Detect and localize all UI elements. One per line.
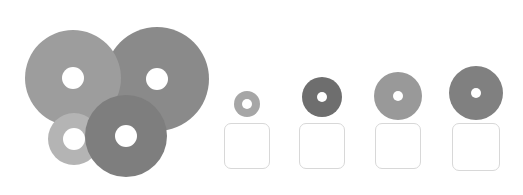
sample-4-disc-center-hole — [471, 88, 481, 98]
illustration-canvas — [0, 0, 523, 195]
sample-1-disc — [234, 91, 260, 117]
sample-1-swatch — [224, 123, 270, 169]
sample-2-disc-center-hole — [317, 92, 327, 102]
disc-large-light-center-hole — [62, 67, 84, 89]
disc-medium-dark-center-hole — [115, 125, 137, 147]
disc-medium-dark — [85, 95, 167, 177]
disc-small-pale-center-hole — [63, 128, 85, 150]
sample-2-disc — [302, 77, 342, 117]
sample-4-swatch — [452, 123, 500, 171]
sample-3-swatch — [375, 123, 421, 169]
disc-large-dark-center-hole — [146, 68, 168, 90]
sample-1-disc-center-hole — [242, 99, 252, 109]
sample-3-disc — [374, 72, 422, 120]
sample-4-disc — [449, 66, 503, 120]
sample-2-swatch — [299, 123, 345, 169]
sample-3-disc-center-hole — [393, 91, 403, 101]
